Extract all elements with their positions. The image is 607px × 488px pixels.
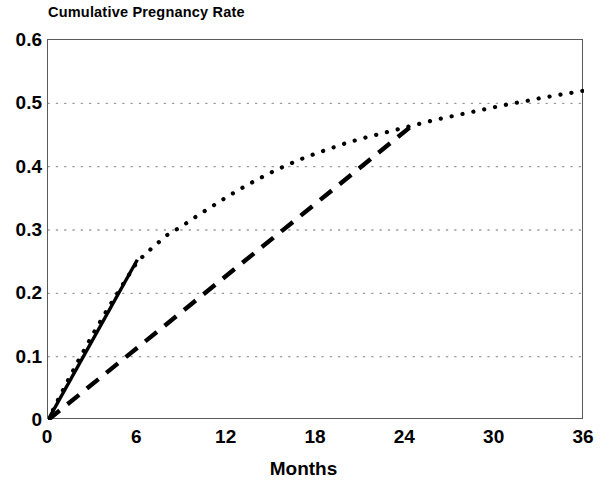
chart-title: Cumulative Pregnancy Rate bbox=[48, 2, 245, 22]
y-tick-label-0: 0 bbox=[0, 410, 42, 429]
x-tick-label-1: 6 bbox=[101, 427, 171, 446]
y-tick-label-1: 0.1 bbox=[0, 346, 42, 365]
y-tick-label-2: 0.2 bbox=[0, 283, 42, 302]
x-tick-label-3: 18 bbox=[280, 427, 350, 446]
y-tick-label-4: 0.4 bbox=[0, 156, 42, 175]
x-tick-label-5: 30 bbox=[459, 427, 529, 446]
plot-canvas bbox=[48, 40, 584, 420]
x-axis-title: Months bbox=[0, 458, 607, 480]
y-axis-tick-labels: 0 0.1 0.2 0.3 0.4 0.5 0.6 bbox=[0, 39, 42, 419]
x-tick-label-2: 12 bbox=[191, 427, 261, 446]
series-solid-line bbox=[48, 260, 137, 420]
x-tick-label-6: 36 bbox=[548, 427, 607, 446]
x-axis-tick-labels: 0 6 12 18 24 30 36 bbox=[47, 427, 583, 451]
y-tick-label-3: 0.3 bbox=[0, 220, 42, 239]
chart-figure: Cumulative Pregnancy Rate 0 0.1 0.2 0.3 … bbox=[0, 0, 607, 488]
gridlines bbox=[48, 103, 584, 356]
series-dashed-line bbox=[48, 127, 410, 420]
y-tick-label-6: 0.6 bbox=[0, 30, 42, 49]
series-dotted-curve bbox=[48, 91, 584, 420]
data-series-layer bbox=[48, 91, 584, 420]
x-tick-label-4: 24 bbox=[369, 427, 439, 446]
plot-area bbox=[47, 39, 583, 419]
x-tick-label-0: 0 bbox=[12, 427, 82, 446]
y-tick-label-5: 0.5 bbox=[0, 93, 42, 112]
